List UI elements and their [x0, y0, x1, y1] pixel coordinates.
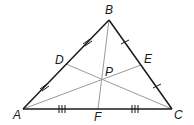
label-E: E [144, 52, 153, 66]
label-C: C [174, 108, 183, 122]
median-AE [23, 65, 141, 109]
side-AB [23, 20, 109, 109]
label-D: D [55, 53, 64, 67]
label-B: B [105, 3, 113, 17]
label-P: P [105, 65, 113, 79]
label-A: A [12, 108, 21, 122]
triangle-diagram: A B C D E F P [0, 0, 194, 125]
label-F: F [94, 110, 102, 124]
